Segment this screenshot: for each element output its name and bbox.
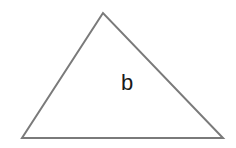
- triangle-diagram: [0, 0, 236, 148]
- triangle-label: b: [121, 72, 133, 94]
